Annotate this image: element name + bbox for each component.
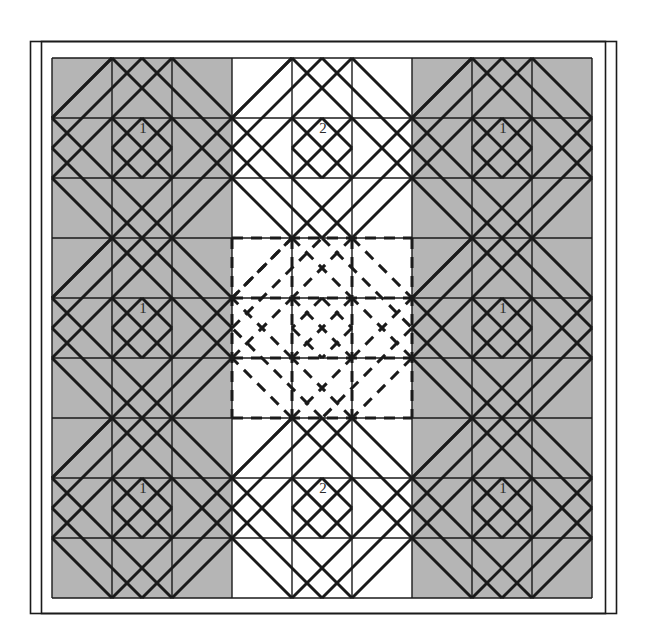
tile-label: 1 xyxy=(499,120,507,137)
tile-label: 2 xyxy=(319,120,327,137)
tile-label: 1 xyxy=(139,120,147,137)
tile-label: 1 xyxy=(139,480,147,497)
tile-label: 1 xyxy=(499,300,507,317)
tile-label: 1 xyxy=(139,300,147,317)
tile-label: 2 xyxy=(319,480,327,497)
tile-label: 1 xyxy=(499,480,507,497)
tiling-figure xyxy=(0,0,646,643)
diagram-stage: 12111121 xyxy=(0,0,646,643)
